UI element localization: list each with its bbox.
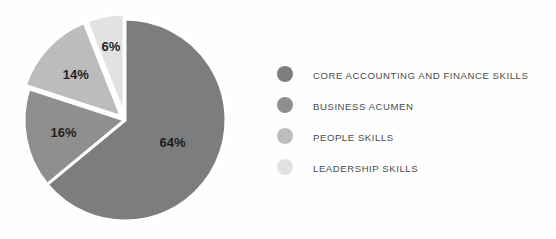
legend-label: PEOPLE SKILLS [313, 122, 394, 153]
pie-slice-value-label-leadership-skills: 6% [101, 38, 120, 53]
chart-legend: CORE ACCOUNTING AND FINANCE SKILLS BUSIN… [277, 60, 547, 184]
legend-swatch-icon [277, 97, 293, 113]
chart-canvas: 64% 16% 14% 6% CORE ACCOUNTING AND FINAN… [0, 0, 556, 239]
pie-svg [0, 0, 260, 239]
legend-label: LEADERSHIP SKILLS [313, 153, 418, 184]
pie-chart: 64% 16% 14% 6% [0, 0, 260, 239]
legend-item-leadership-skills[interactable]: LEADERSHIP SKILLS [277, 153, 547, 184]
pie-slice-value-label-people-skills: 14% [63, 66, 89, 81]
pie-slice-value-label-core-accounting-and-finance-skills: 64% [159, 135, 185, 150]
legend-label: CORE ACCOUNTING AND FINANCE SKILLS [313, 60, 528, 91]
legend-item-people-skills[interactable]: PEOPLE SKILLS [277, 122, 547, 153]
legend-swatch-icon [277, 66, 293, 82]
pie-slice-value-label-business-acumen: 16% [50, 124, 76, 139]
legend-item-business-acumen[interactable]: BUSINESS ACUMEN [277, 91, 547, 122]
legend-item-core-accounting-and-finance-skills[interactable]: CORE ACCOUNTING AND FINANCE SKILLS [277, 60, 547, 91]
legend-swatch-icon [277, 128, 293, 144]
pie-slices [24, 14, 226, 221]
legend-label: BUSINESS ACUMEN [313, 91, 413, 122]
legend-swatch-icon [277, 159, 293, 175]
